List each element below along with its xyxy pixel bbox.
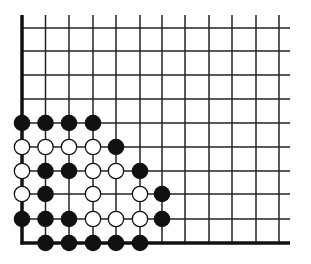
white-stone[interactable]	[132, 186, 147, 201]
black-stone[interactable]	[61, 211, 78, 228]
white-stone[interactable]	[14, 186, 29, 201]
go-board[interactable]	[0, 0, 311, 264]
white-stone[interactable]	[85, 186, 100, 201]
black-stone[interactable]	[61, 163, 78, 180]
white-stone[interactable]	[132, 211, 147, 226]
black-stone[interactable]	[61, 115, 78, 132]
white-stone[interactable]	[61, 139, 76, 154]
black-stone[interactable]	[37, 211, 54, 228]
black-stone[interactable]	[154, 211, 171, 228]
white-stone[interactable]	[108, 211, 123, 226]
white-stone[interactable]	[38, 139, 53, 154]
black-stone[interactable]	[108, 235, 125, 252]
black-stone[interactable]	[37, 163, 54, 180]
stones-layer	[14, 115, 171, 252]
black-stone[interactable]	[37, 235, 54, 252]
black-stone[interactable]	[132, 235, 149, 252]
black-stone[interactable]	[132, 163, 149, 180]
black-stone[interactable]	[85, 115, 102, 132]
grid-lines	[22, 15, 290, 243]
black-stone[interactable]	[154, 186, 171, 203]
black-stone[interactable]	[14, 115, 31, 132]
black-stone[interactable]	[85, 235, 102, 252]
black-stone[interactable]	[14, 211, 31, 228]
white-stone[interactable]	[14, 163, 29, 178]
black-stone[interactable]	[37, 186, 54, 203]
white-stone[interactable]	[14, 139, 29, 154]
white-stone[interactable]	[85, 163, 100, 178]
black-stone[interactable]	[61, 235, 78, 252]
black-stone[interactable]	[37, 115, 54, 132]
black-stone[interactable]	[108, 139, 125, 156]
white-stone[interactable]	[108, 163, 123, 178]
white-stone[interactable]	[85, 211, 100, 226]
white-stone[interactable]	[85, 139, 100, 154]
board-edges	[21, 15, 291, 245]
